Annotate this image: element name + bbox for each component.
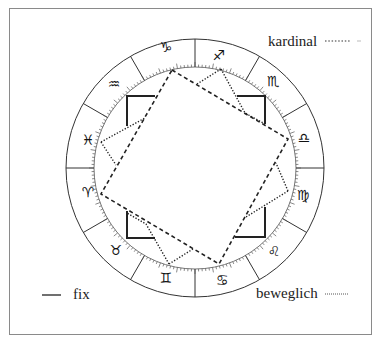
mutable-lines [101,69,288,264]
zodiac-glyph-icon: ♑︎ [160,39,173,55]
legend-fixed-label: fix [73,287,90,302]
zodiac-glyph-icon: ♐︎ [213,47,226,63]
legend-cardinal-label: kardinal [268,34,317,49]
zodiac-glyph-icon: ♋︎ [216,272,229,288]
zodiac-glyph-icon: ♓︎ [82,132,95,148]
zodiac-glyph-icon: ♏︎ [267,73,280,89]
outer-circle [66,39,324,297]
fixed-bracket-top-right [237,96,265,124]
sign-dividers [66,39,324,297]
zodiac-wheel: ♑︎♐︎♏︎♎︎♍︎♌︎♋︎♊︎♉︎♈︎♓︎♒︎ [0,0,383,346]
zodiac-glyph-icon: ♈︎ [82,184,95,200]
zodiac-glyph-icon: ♉︎ [110,242,123,258]
zodiac-glyph-icon: ♊︎ [160,270,173,286]
zodiac-glyph-icon: ♍︎ [297,187,310,203]
zodiac-glyph-icon: ♌︎ [268,243,281,259]
legend-mutable-label: beweglich [256,286,318,301]
zodiac-glyph-icon: ♒︎ [108,76,121,92]
cardinal-square [101,70,288,264]
zodiac-glyph-icon: ♎︎ [298,130,311,146]
fixed-bracket-bottom-right [235,207,265,237]
fixed-bracket-top-left [127,96,155,126]
